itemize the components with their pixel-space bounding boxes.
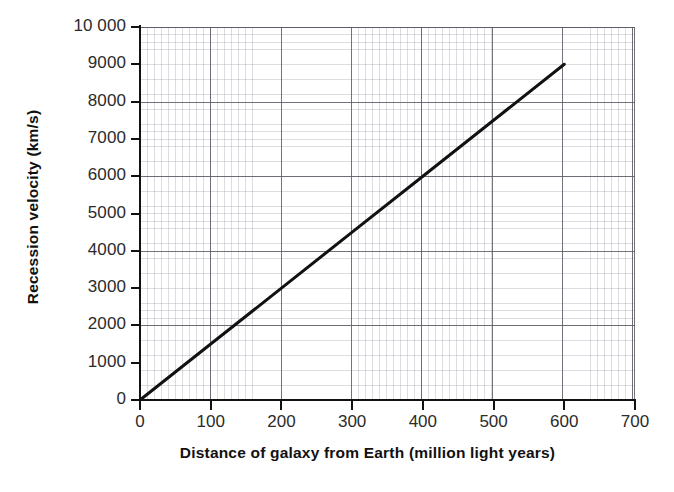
x-tick-label-300: 300 xyxy=(317,412,387,432)
y-tick-1000 xyxy=(131,362,140,364)
y-tick-9000 xyxy=(131,63,140,65)
x-tick-100 xyxy=(210,401,212,410)
y-axis-title: Recession velocity (km/s) xyxy=(24,42,42,372)
page-edge-artifacts xyxy=(0,476,674,492)
y-tick-label-8000: 8000 xyxy=(56,91,126,111)
x-tick-label-500: 500 xyxy=(459,412,529,432)
y-tick-2000 xyxy=(131,324,140,326)
plot-border xyxy=(140,27,635,400)
x-tick-label-0: 0 xyxy=(105,412,175,432)
x-axis-line xyxy=(139,399,636,401)
y-tick-label-2000: 2000 xyxy=(56,314,126,334)
x-tick-0 xyxy=(139,401,141,410)
x-tick-200 xyxy=(280,401,282,410)
y-tick-label-10000: 10 000 xyxy=(56,16,126,36)
y-tick-7000 xyxy=(131,138,140,140)
x-tick-500 xyxy=(493,401,495,410)
x-tick-600 xyxy=(563,401,565,410)
y-tick-5000 xyxy=(131,213,140,215)
y-tick-label-7000: 7000 xyxy=(56,128,126,148)
y-tick-label-6000: 6000 xyxy=(56,165,126,185)
hubble-law-chart: 010002000300040005000600070008000900010 … xyxy=(0,0,674,492)
x-tick-label-200: 200 xyxy=(246,412,316,432)
y-tick-label-5000: 5000 xyxy=(56,203,126,223)
plot-area xyxy=(140,27,635,400)
y-tick-label-1000: 1000 xyxy=(56,352,126,372)
x-tick-label-700: 700 xyxy=(600,412,670,432)
y-tick-label-3000: 3000 xyxy=(56,277,126,297)
y-tick-10000 xyxy=(131,26,140,28)
y-axis-tick-labels: 010002000300040005000600070008000900010 … xyxy=(48,0,126,430)
y-tick-4000 xyxy=(131,250,140,252)
x-axis-title: Distance of galaxy from Earth (million l… xyxy=(95,444,640,462)
x-tick-400 xyxy=(422,401,424,410)
y-tick-3000 xyxy=(131,287,140,289)
y-tick-8000 xyxy=(131,101,140,103)
x-tick-700 xyxy=(634,401,636,410)
x-tick-label-400: 400 xyxy=(388,412,458,432)
y-tick-label-4000: 4000 xyxy=(56,240,126,260)
y-tick-6000 xyxy=(131,175,140,177)
x-tick-label-100: 100 xyxy=(176,412,246,432)
x-tick-label-600: 600 xyxy=(529,412,599,432)
x-tick-300 xyxy=(351,401,353,410)
y-tick-label-9000: 9000 xyxy=(56,53,126,73)
y-tick-label-0: 0 xyxy=(56,389,126,409)
